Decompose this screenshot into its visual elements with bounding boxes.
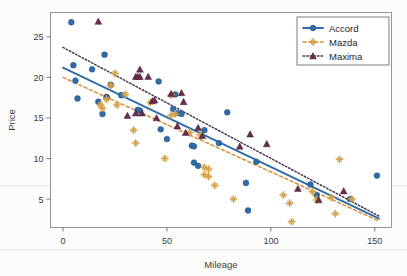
x-tick-label: 150: [367, 236, 382, 246]
data-point: [112, 70, 119, 77]
data-point: [205, 173, 212, 180]
data-point: [374, 173, 380, 179]
data-point: [288, 219, 295, 226]
chart-legend[interactable]: AccordMazdaMaxima: [297, 17, 389, 65]
y-axis-label: Price: [6, 109, 17, 131]
data-point: [253, 159, 259, 165]
data-point: [107, 82, 114, 89]
y-tick-label: 5: [38, 195, 43, 205]
data-point: [102, 52, 108, 58]
data-point: [68, 19, 74, 25]
data-point: [245, 208, 251, 214]
data-point: [336, 156, 343, 163]
data-point: [118, 92, 124, 98]
data-point: [162, 155, 169, 162]
data-point: [73, 78, 79, 84]
scatter-plot-svg: 050100150510152025 Mileage Price AccordM…: [0, 0, 407, 276]
data-point: [332, 210, 339, 217]
y-tick-label: 15: [33, 113, 43, 123]
data-point: [114, 102, 121, 109]
data-point: [103, 96, 110, 103]
legend-label-mazda: Mazda: [329, 37, 358, 48]
x-tick-label: 100: [263, 236, 278, 246]
data-point: [349, 196, 356, 203]
x-tick-label: 50: [162, 236, 172, 246]
legend-label-accord: Accord: [329, 23, 359, 34]
legend-label-maxima: Maxima: [329, 51, 363, 62]
data-point: [172, 111, 179, 118]
data-point: [211, 182, 218, 189]
data-point: [99, 105, 106, 112]
data-point: [158, 126, 164, 132]
data-point: [179, 111, 185, 117]
data-point: [216, 140, 222, 146]
x-axis-label: Mileage: [204, 259, 237, 270]
y-tick-label: 20: [33, 73, 43, 83]
data-point: [132, 140, 139, 147]
y-tick-label: 25: [33, 32, 43, 42]
data-point: [130, 127, 137, 134]
data-point: [309, 189, 316, 196]
data-point: [243, 180, 249, 186]
data-point: [230, 196, 237, 203]
data-point: [195, 163, 201, 169]
legend-marker-accord: [310, 25, 316, 31]
data-point: [122, 91, 129, 98]
data-point: [205, 166, 212, 173]
data-point: [224, 109, 230, 115]
data-point: [328, 194, 335, 201]
data-point: [164, 136, 170, 142]
x-tick-label: 0: [60, 236, 65, 246]
data-point: [191, 143, 197, 149]
data-point: [308, 182, 314, 188]
data-point: [280, 192, 287, 199]
data-point: [89, 66, 95, 72]
legend-marker-mazda: [310, 39, 317, 46]
data-point: [156, 79, 162, 85]
data-point: [70, 62, 76, 68]
data-point: [286, 200, 293, 207]
data-point: [75, 96, 81, 102]
chart-figure: 050100150510152025 Mileage Price AccordM…: [0, 0, 407, 276]
y-tick-label: 10: [33, 154, 43, 164]
